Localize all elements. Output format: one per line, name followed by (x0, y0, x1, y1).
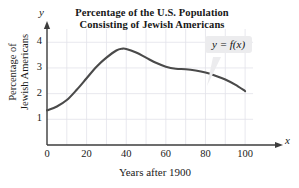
y-tick-label: 3 (28, 61, 42, 72)
x-axis-label: Years after 1900 (60, 166, 250, 178)
callout-pointer-tail (207, 57, 221, 86)
y-tick-label: 4 (28, 35, 42, 46)
y-tick-label: 2 (28, 87, 42, 98)
y-axis-variable-symbol: y (39, 6, 44, 18)
function-annotation-callout: y = f(x) (205, 36, 252, 53)
x-axis-variable-symbol: x (285, 134, 290, 146)
gridlines-horizontal (47, 42, 253, 119)
chart-figure: Percentage of the U.S. Population Consis… (0, 0, 299, 188)
chart-title: Percentage of the U.S. Population Consis… (52, 7, 252, 30)
x-tick-label: 0 (36, 148, 58, 159)
x-tick-label: 60 (155, 148, 177, 159)
x-tick-label: 20 (76, 148, 98, 159)
chart-title-line2: Consisting of Jewish Americans (79, 19, 224, 30)
y-tick-label: 1 (28, 112, 42, 123)
chart-title-line1: Percentage of the U.S. Population (75, 7, 229, 18)
y-axis-label-line1: Percentage of (7, 12, 19, 132)
y-axis-arrowhead (44, 21, 50, 29)
x-tick-label: 40 (115, 148, 137, 159)
x-tick-label: 100 (234, 148, 256, 159)
x-tick-label: 80 (194, 148, 216, 159)
x-axis-arrowhead (275, 142, 283, 148)
